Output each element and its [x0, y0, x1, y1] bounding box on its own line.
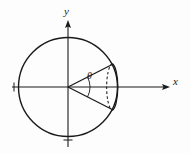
figure-container: y x θ	[0, 0, 190, 153]
geometry-diagram	[0, 0, 190, 153]
angle-theta-label: θ	[87, 71, 92, 81]
y-axis-label: y	[64, 6, 69, 17]
x-axis-label: x	[173, 76, 178, 87]
y-axis	[64, 20, 73, 147]
x-axis	[12, 83, 170, 92]
